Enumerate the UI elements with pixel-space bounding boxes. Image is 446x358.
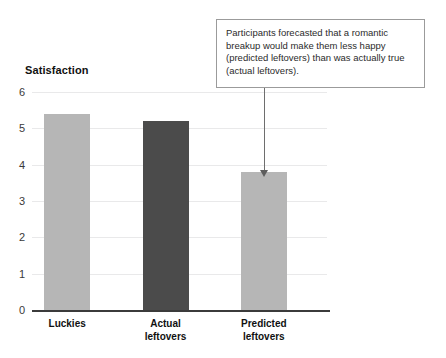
annotation-callout: Participants forecasted that a romantic … bbox=[216, 19, 425, 88]
y-axis-tick-label: 3 bbox=[19, 196, 25, 207]
annotation-arrowhead-icon bbox=[260, 170, 268, 177]
annotation-connector-line bbox=[264, 88, 265, 172]
y-axis-tick-label: 5 bbox=[19, 123, 25, 134]
y-axis-tick-label: 2 bbox=[19, 232, 25, 243]
y-axis-tick-label: 1 bbox=[19, 268, 25, 279]
bar-predicted-leftovers bbox=[241, 172, 287, 310]
annotation-text: Participants forecasted that a romantic … bbox=[217, 20, 424, 77]
bar-luckies bbox=[44, 114, 90, 310]
x-axis-category-line: Predicted bbox=[219, 318, 309, 331]
y-axis-title: Satisfaction bbox=[25, 64, 89, 76]
x-axis-category-label: Predictedleftovers bbox=[219, 318, 309, 343]
x-axis-category-label: Actualleftovers bbox=[121, 318, 211, 343]
gridline bbox=[32, 310, 327, 311]
x-axis-category-line: Luckies bbox=[22, 318, 112, 331]
x-axis-category-line: Actual bbox=[121, 318, 211, 331]
gridline bbox=[32, 92, 327, 93]
y-axis-tick-label: 4 bbox=[19, 159, 25, 170]
x-axis-category-line: leftovers bbox=[219, 331, 309, 344]
cropped-caption-text: … bbox=[104, 0, 113, 2]
bar-actual-leftovers bbox=[143, 121, 189, 310]
x-axis-category-label: Luckies bbox=[22, 318, 112, 331]
bar-chart-figure: … Satisfaction 0123456 Participants fore… bbox=[0, 0, 446, 358]
y-axis-tick-label: 6 bbox=[19, 87, 25, 98]
y-axis-tick-label: 0 bbox=[19, 305, 25, 316]
plot-area: 0123456 bbox=[32, 92, 327, 310]
cropped-caption-sliver: … bbox=[0, 0, 446, 6]
x-axis-category-line: leftovers bbox=[121, 331, 211, 344]
